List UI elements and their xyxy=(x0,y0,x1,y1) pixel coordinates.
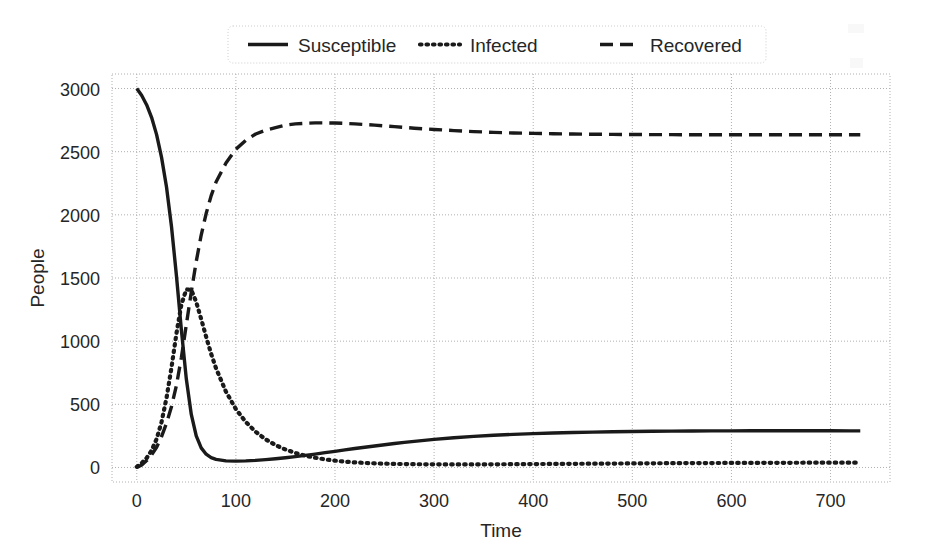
y-tick-label-3: 1500 xyxy=(60,269,100,289)
y-axis-label: People xyxy=(27,248,48,307)
legend-label-susceptible: Susceptible xyxy=(298,35,396,56)
y-tick-label-2: 1000 xyxy=(60,332,100,352)
scan-artifact-lower xyxy=(850,58,863,68)
legend-label-recovered: Recovered xyxy=(650,35,742,56)
y-tick-label-1: 500 xyxy=(70,395,100,415)
y-tick-label-5: 2500 xyxy=(60,143,100,163)
y-tick-label-6: 3000 xyxy=(60,80,100,100)
y-tick-label-4: 2000 xyxy=(60,206,100,226)
x-tick-label-1: 100 xyxy=(221,491,251,511)
x-tick-label-4: 400 xyxy=(518,491,548,511)
y-tick-label-0: 0 xyxy=(90,458,100,478)
x-tick-label-2: 200 xyxy=(320,491,350,511)
x-tick-label-7: 700 xyxy=(816,491,846,511)
sir-model-line-chart: 0500100015002000250030000100200300400500… xyxy=(0,0,939,549)
x-tick-label-0: 0 xyxy=(132,491,142,511)
x-axis-label: Time xyxy=(480,520,522,541)
x-tick-label-6: 600 xyxy=(716,491,746,511)
scan-artifact-upper xyxy=(848,24,864,33)
x-tick-label-5: 500 xyxy=(617,491,647,511)
legend-label-infected: Infected xyxy=(470,35,538,56)
x-tick-label-3: 300 xyxy=(419,491,449,511)
